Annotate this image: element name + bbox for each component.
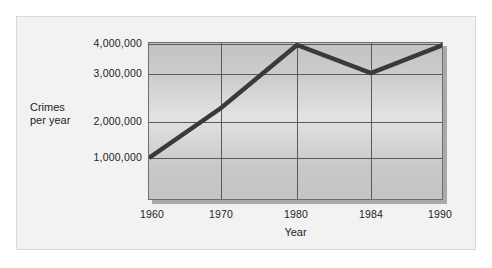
chart-figure: 4,000,000 3,000,000 2,000,000 1,000,000 … xyxy=(0,0,492,268)
y-tick-3000000: 3,000,000 xyxy=(76,67,142,79)
y-axis-label: Crimes per year xyxy=(30,101,96,127)
plot-area xyxy=(148,42,443,200)
x-tick-1984: 1984 xyxy=(359,208,383,220)
y-tick-4000000: 4,000,000 xyxy=(76,37,142,49)
y-axis-label-line-2: per year xyxy=(30,114,96,127)
x-tick-1970: 1970 xyxy=(209,208,233,220)
y-axis-label-line-1: Crimes xyxy=(30,101,96,114)
x-tick-1980: 1980 xyxy=(284,208,308,220)
series-polyline-crimes xyxy=(149,45,443,158)
x-tick-1960: 1960 xyxy=(140,208,164,220)
data-series-line xyxy=(149,43,443,200)
x-axis-label: Year xyxy=(148,226,443,238)
x-tick-1990: 1990 xyxy=(428,208,452,220)
y-tick-1000000: 1,000,000 xyxy=(76,151,142,163)
x-axis-tick-labels: 1960 1970 1980 1984 1990 xyxy=(0,208,492,224)
